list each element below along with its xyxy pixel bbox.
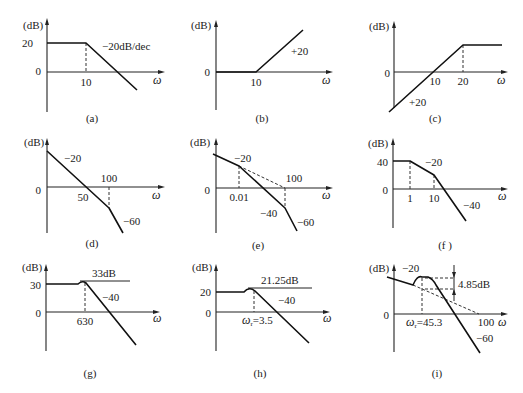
x-tick-20: 20 bbox=[458, 75, 470, 87]
slope-label-high: −60 bbox=[123, 215, 141, 227]
magnitude-asymptote bbox=[389, 45, 502, 112]
x-tick-omega-r: ωr=45.3 bbox=[406, 315, 443, 330]
omega-symbol: ω bbox=[242, 313, 250, 327]
bode-panel-i: (dB) 0 ωr=45.3 100 ω 4.85dB −20 −60 (i) bbox=[340, 255, 523, 393]
bode-panel-b: (dB) 0 10 ω +20 (b) bbox=[170, 0, 345, 128]
y-axis-arrow-icon bbox=[392, 21, 396, 28]
y-units-label: (dB) bbox=[23, 19, 44, 32]
x-tick-1: 1 bbox=[407, 192, 413, 204]
panel-caption: (e) bbox=[252, 239, 265, 252]
x-tick-100: 100 bbox=[478, 316, 495, 328]
omega-label: ω bbox=[497, 73, 505, 87]
x-tick-10: 10 bbox=[430, 75, 442, 87]
y-units-label: (dB) bbox=[369, 262, 390, 275]
omega-label: ω bbox=[153, 311, 161, 325]
y-tick-0: 0 bbox=[36, 184, 42, 196]
y-tick-0: 0 bbox=[385, 67, 391, 79]
panel-caption: (b) bbox=[256, 112, 269, 125]
y-tick-0: 0 bbox=[205, 184, 211, 196]
peak-annotation: 21.25dB bbox=[261, 274, 299, 286]
panel-caption: (g) bbox=[84, 367, 97, 380]
panel-caption: (f ) bbox=[438, 239, 452, 252]
y-tick-40: 40 bbox=[377, 156, 389, 168]
omega-label: ω bbox=[322, 73, 330, 87]
x-tick-100: 100 bbox=[286, 172, 303, 184]
dimension-arrow-up-icon bbox=[452, 289, 456, 295]
panel-caption: (i) bbox=[432, 367, 443, 380]
y-units-label: (dB) bbox=[191, 19, 212, 32]
slope-label-2: −60 bbox=[476, 332, 494, 344]
y-tick-0: 0 bbox=[205, 66, 211, 78]
y-tick-20: 20 bbox=[200, 286, 212, 298]
y-tick-30: 30 bbox=[30, 279, 42, 291]
slope-label-low: −20 bbox=[64, 152, 82, 164]
x-tick-50: 50 bbox=[78, 191, 90, 203]
magnitude-asymptote bbox=[216, 30, 303, 72]
y-units-label: (dB) bbox=[24, 136, 45, 149]
y-tick-0: 0 bbox=[383, 184, 389, 196]
y-axis-arrow-icon bbox=[392, 264, 396, 271]
y-units-label: (dB) bbox=[190, 136, 211, 149]
omega-label: ω bbox=[322, 188, 330, 202]
y-tick-0: 0 bbox=[206, 307, 212, 319]
magnitude-asymptote bbox=[393, 161, 466, 221]
omega-label: ω bbox=[498, 189, 506, 203]
slope-label-2: −40 bbox=[463, 199, 481, 211]
bode-panel-d: (dB) 0 50 100 ω −20 −60 (d) bbox=[0, 125, 175, 255]
y-tick-0: 0 bbox=[384, 309, 390, 321]
x-tick-10: 10 bbox=[81, 76, 93, 88]
slope-label: −40 bbox=[102, 291, 120, 303]
y-units-label: (dB) bbox=[368, 137, 389, 150]
slope-label: +20 bbox=[409, 96, 427, 108]
omega-label: ω bbox=[153, 73, 161, 87]
peak-annotation: 33dB bbox=[92, 267, 116, 279]
x-tick-630: 630 bbox=[77, 315, 94, 327]
y-tick-0: 0 bbox=[36, 307, 42, 319]
x-tick-omega-r: ωr=3.5 bbox=[242, 313, 273, 328]
omega-r-value: =45.3 bbox=[417, 316, 443, 328]
y-tick-20: 20 bbox=[22, 37, 34, 49]
bode-panel-a: (dB) 20 0 10 ω −20dB/dec (a) bbox=[0, 0, 175, 128]
bode-panel-g: (dB) 30 0 630 ω 33dB −40 (g) bbox=[0, 255, 175, 393]
y-axis-arrow-icon bbox=[44, 264, 48, 271]
y-axis-arrow-icon bbox=[214, 138, 218, 145]
magnitude-asymptote bbox=[213, 154, 297, 231]
slope-label: −20dB/dec bbox=[102, 40, 150, 52]
panel-caption: (a) bbox=[86, 112, 99, 125]
omega-symbol: ω bbox=[406, 315, 414, 329]
slope-label-2: −40 bbox=[260, 207, 278, 219]
slope-label: −40 bbox=[278, 294, 296, 306]
x-tick-10: 10 bbox=[251, 76, 263, 88]
x-tick-10: 10 bbox=[429, 192, 441, 204]
y-axis-arrow-icon bbox=[391, 138, 395, 145]
bode-panel-e: (dB) 0 0.01 100 ω −20 −40 −60 (e) bbox=[170, 125, 345, 255]
y-axis-arrow-icon bbox=[214, 20, 218, 27]
y-units-label: (dB) bbox=[369, 20, 390, 33]
peak-annotation: 4.85dB bbox=[458, 278, 490, 290]
slope-label-3: −60 bbox=[297, 216, 315, 228]
dimension-arrow-down-icon bbox=[452, 272, 456, 278]
slope-label-1: −20 bbox=[402, 262, 420, 274]
panel-caption: (d) bbox=[86, 237, 99, 250]
magnitude-curve bbox=[46, 282, 136, 345]
bode-panel-h: (dB) 20 0 ωr=3.5 ω 21.25dB −40 (h) bbox=[170, 255, 345, 393]
y-units-label: (dB) bbox=[22, 261, 43, 274]
y-axis-arrow-icon bbox=[45, 138, 49, 145]
slope-label: +20 bbox=[291, 45, 309, 57]
y-axis-arrow-icon bbox=[214, 264, 218, 271]
slope-label-1: −20 bbox=[234, 152, 252, 164]
y-tick-0: 0 bbox=[36, 65, 42, 77]
x-tick-0.01: 0.01 bbox=[229, 191, 248, 203]
panel-caption: (h) bbox=[254, 367, 267, 380]
bode-panel-f: (dB) 40 0 1 10 ω −20 −40 (f ) bbox=[340, 125, 523, 255]
panel-caption: (c) bbox=[429, 112, 442, 125]
omega-r-value: =3.5 bbox=[253, 314, 273, 326]
bode-panel-c: (dB) 0 10 20 ω +20 (c) bbox=[340, 0, 523, 128]
y-units-label: (dB) bbox=[192, 261, 213, 274]
minus20-extension bbox=[239, 166, 285, 188]
y-axis-arrow-icon bbox=[45, 18, 49, 25]
omega-label: ω bbox=[498, 315, 506, 329]
slope-label-1: −20 bbox=[425, 156, 443, 168]
x-tick-100: 100 bbox=[101, 172, 118, 184]
omega-label: ω bbox=[323, 311, 331, 325]
